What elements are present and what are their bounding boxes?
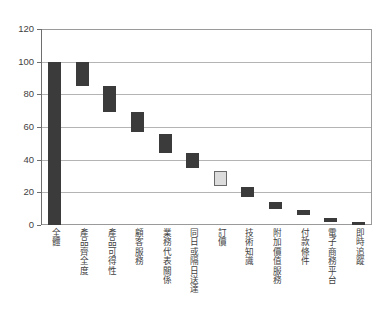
y-axis-tick-labels: 020406080100120: [0, 0, 34, 324]
x-label-1: 全體: [50, 228, 60, 247]
y-tick-label-40: 40: [23, 155, 34, 165]
x-label-2: 產品齊全度: [77, 228, 87, 275]
y-tick-label-100: 100: [18, 57, 34, 67]
x-axis-tick-labels: 全體產品齊全度產品可得性顧客服務業務代表關係同日或隔日送達訂價技術知識附加價值服…: [41, 228, 372, 324]
x-label-10: 付款條件: [298, 228, 308, 266]
y-tick-label-0: 0: [29, 220, 34, 230]
y-tick-mark-0: [37, 225, 41, 226]
x-label-3: 產品可得性: [105, 228, 115, 275]
bar-6: [186, 153, 199, 168]
y-tick-label-60: 60: [23, 122, 34, 132]
waterfall-chart: 020406080100120 全體產品齊全度產品可得性顧客服務業務代表關係同日…: [0, 0, 384, 324]
bar-10: [297, 210, 310, 215]
bar-11: [324, 218, 337, 221]
y-tick-mark-120: [37, 29, 41, 30]
bar-3: [103, 86, 116, 112]
bar-1: [48, 62, 61, 225]
y-tick-mark-20: [37, 192, 41, 193]
x-label-4: 顧客服務: [133, 228, 143, 266]
bars-layer: [41, 29, 372, 225]
y-tick-mark-40: [37, 160, 41, 161]
x-label-12: 即時追蹤: [353, 228, 363, 266]
y-tick-mark-100: [37, 62, 41, 63]
x-label-9: 附加價值服務: [270, 228, 280, 284]
bar-12: [352, 222, 365, 225]
bar-4: [131, 112, 144, 132]
x-label-7: 訂價: [215, 228, 225, 247]
x-label-5: 業務代表關係: [160, 228, 170, 284]
bar-2: [76, 62, 89, 87]
y-tick-mark-80: [37, 94, 41, 95]
bar-9: [269, 202, 282, 209]
y-tick-label-80: 80: [23, 89, 34, 99]
y-tick-label-120: 120: [18, 24, 34, 34]
y-tick-mark-60: [37, 127, 41, 128]
bar-5: [159, 134, 172, 154]
x-label-6: 同日或隔日送達: [188, 228, 198, 294]
x-label-8: 技術知識: [243, 228, 253, 266]
x-label-11: 電子商務平台: [326, 228, 336, 284]
bar-7: [214, 171, 227, 186]
bar-8: [241, 187, 254, 197]
y-tick-label-20: 20: [23, 187, 34, 197]
